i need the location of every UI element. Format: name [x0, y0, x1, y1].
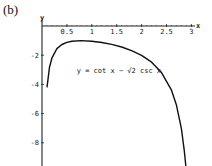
function-plot: xy0.511.522.53-2-4-6-8 y = cot x − √2 cs… [0, 0, 212, 166]
x-tick-label: 2.5 [160, 28, 173, 36]
y-tick-label: -6 [31, 110, 39, 118]
annotation-layer: y = cot x − √2 csc x [77, 67, 161, 75]
equation-annotation: y = cot x − √2 csc x [77, 67, 161, 75]
y-axis-label: y [40, 14, 45, 22]
y-tick-label: -8 [31, 139, 39, 147]
x-tick-label: 1.5 [110, 28, 123, 36]
y-tick-label: -2 [31, 52, 39, 60]
x-tick-label: 0.5 [61, 28, 74, 36]
y-tick-label: -4 [31, 81, 39, 89]
axes: xy0.511.522.53-2-4-6-8 [31, 14, 201, 166]
x-tick-label: 2 [139, 28, 143, 36]
x-tick-label: 1 [90, 28, 94, 36]
x-tick-label: 3 [189, 28, 193, 36]
function-curve [47, 41, 186, 166]
x-axis-label: x [196, 22, 201, 30]
curve-layer [47, 41, 186, 166]
